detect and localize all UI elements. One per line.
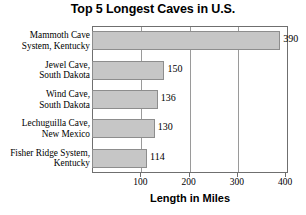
bar — [92, 119, 155, 138]
bar-value-label: 150 — [167, 63, 182, 74]
bar — [92, 149, 147, 168]
bar-row: 130 — [92, 119, 288, 138]
category-label-line: New Mexico — [2, 129, 90, 140]
x-tick-label: 100 — [120, 177, 160, 187]
bar-row: 114 — [92, 149, 288, 168]
category-label-line: Kentucky — [2, 158, 90, 169]
category-label-line: System, Kentucky — [2, 41, 90, 52]
bar-row: 136 — [92, 90, 288, 109]
bar-value-label: 136 — [161, 92, 176, 103]
chart-title: Top 5 Longest Caves in U.S. — [0, 2, 306, 16]
bar-value-label: 130 — [158, 121, 173, 132]
category-label: Lechuguilla Cave,New Mexico — [2, 118, 90, 139]
category-label-line: South Dakota — [2, 100, 90, 111]
category-label-line: Mammoth Cave — [2, 30, 90, 41]
category-label-line: Wind Cave, — [2, 89, 90, 100]
category-label-line: South Dakota — [2, 70, 90, 81]
x-axis-title: Length in Miles — [92, 192, 288, 204]
category-label: Jewel Cave,South Dakota — [2, 60, 90, 81]
bar-row: 390 — [92, 31, 288, 50]
bar-row: 150 — [92, 61, 288, 80]
x-tick-label: 300 — [217, 177, 257, 187]
x-tick-label: 400 — [265, 177, 305, 187]
bar — [92, 61, 164, 80]
x-tick-label: 200 — [169, 177, 209, 187]
bar-value-label: 390 — [283, 33, 298, 44]
category-label: Fisher Ridge System,Kentucky — [2, 148, 90, 169]
category-label-line: Jewel Cave, — [2, 60, 90, 71]
bars-layer: 390150136130114 — [92, 26, 288, 173]
bar-chart: Top 5 Longest Caves in U.S. 390150136130… — [0, 0, 306, 215]
category-label: Wind Cave,South Dakota — [2, 89, 90, 110]
bar — [92, 90, 158, 109]
bar-value-label: 114 — [150, 151, 165, 162]
category-label-line: Fisher Ridge System, — [2, 148, 90, 159]
category-label-line: Lechuguilla Cave, — [2, 118, 90, 129]
bar — [92, 31, 280, 50]
category-label: Mammoth CaveSystem, Kentucky — [2, 30, 90, 51]
